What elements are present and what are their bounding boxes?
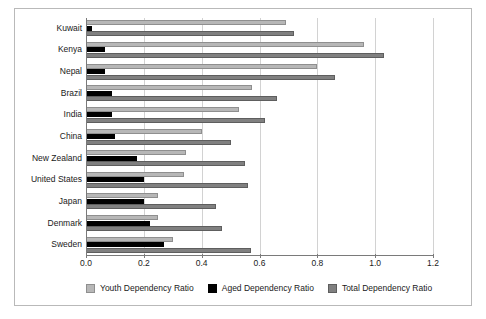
- y-axis-label: Japan: [2, 196, 82, 206]
- legend-swatch-icon: [328, 284, 337, 293]
- legend-item[interactable]: Aged Dependency Ratio: [208, 283, 314, 293]
- bar-group: [86, 85, 433, 102]
- bar: [86, 221, 150, 226]
- y-axis-label: New Zealand: [2, 153, 82, 163]
- plot-area: [86, 18, 433, 256]
- bar: [86, 177, 144, 182]
- x-axis-tick-label: 1.0: [369, 258, 381, 268]
- bar: [86, 91, 112, 96]
- bar-group: [86, 129, 433, 146]
- bar: [86, 129, 202, 134]
- y-axis-label: Kuwait: [2, 23, 82, 33]
- bar: [86, 26, 92, 31]
- bar: [86, 237, 173, 242]
- bar-group: [86, 107, 433, 124]
- legend-item[interactable]: Youth Dependency Ratio: [86, 283, 194, 293]
- x-axis-tick-label: 0.0: [80, 258, 92, 268]
- bar: [86, 156, 137, 161]
- x-axis-tick-label: 0.6: [254, 258, 266, 268]
- bar: [86, 199, 144, 204]
- bar: [86, 134, 115, 139]
- bar-group: [86, 20, 433, 37]
- bar: [86, 226, 222, 231]
- legend-item[interactable]: Total Dependency Ratio: [328, 283, 432, 293]
- bar-group: [86, 193, 433, 210]
- bar: [86, 96, 277, 101]
- y-axis-label: Sweden: [2, 239, 82, 249]
- gridline: [433, 18, 434, 256]
- chart-legend: Youth Dependency RatioAged Dependency Ra…: [86, 281, 446, 295]
- x-axis-tick-label: 1.2: [427, 258, 439, 268]
- bar: [86, 31, 294, 36]
- bar: [86, 183, 248, 188]
- bar-groups: [86, 18, 433, 256]
- bar: [86, 53, 384, 58]
- y-axis-label: Denmark: [2, 218, 82, 228]
- y-axis-label: United States: [2, 174, 82, 184]
- x-axis-tick-label: 0.4: [196, 258, 208, 268]
- bar: [86, 107, 239, 112]
- bar-group: [86, 64, 433, 81]
- bar: [86, 20, 286, 25]
- bar: [86, 112, 112, 117]
- bar-group: [86, 150, 433, 167]
- y-axis-label: Kenya: [2, 44, 82, 54]
- bar-group: [86, 215, 433, 232]
- chart-figure: KuwaitKenyaNepalBrazilIndiaChinaNew Zeal…: [0, 0, 486, 319]
- bar-group: [86, 42, 433, 59]
- bar-group: [86, 237, 433, 254]
- x-axis-ticks: 0.00.20.40.60.81.01.2: [86, 258, 433, 272]
- y-axis-label: China: [2, 131, 82, 141]
- bar: [86, 172, 184, 177]
- bar: [86, 215, 158, 220]
- y-axis-label: Brazil: [2, 88, 82, 98]
- bar: [86, 193, 158, 198]
- bar: [86, 248, 251, 253]
- x-axis-tick-label: 0.2: [138, 258, 150, 268]
- bar: [86, 69, 105, 74]
- y-axis-label: Nepal: [2, 66, 82, 76]
- bar: [86, 75, 335, 80]
- bar: [86, 42, 364, 47]
- bar: [86, 47, 105, 52]
- bar: [86, 242, 164, 247]
- bar: [86, 85, 252, 90]
- bar: [86, 161, 245, 166]
- bar: [86, 150, 186, 155]
- bar-group: [86, 172, 433, 189]
- bar: [86, 140, 231, 145]
- y-axis-labels: KuwaitKenyaNepalBrazilIndiaChinaNew Zeal…: [0, 18, 82, 256]
- legend-label: Youth Dependency Ratio: [100, 283, 194, 293]
- y-axis-label: India: [2, 109, 82, 119]
- legend-swatch-icon: [208, 284, 217, 293]
- legend-swatch-icon: [86, 284, 95, 293]
- legend-label: Aged Dependency Ratio: [222, 283, 314, 293]
- bar: [86, 118, 265, 123]
- bar: [86, 64, 317, 69]
- bar: [86, 204, 216, 209]
- legend-label: Total Dependency Ratio: [342, 283, 432, 293]
- x-axis-tick-label: 0.8: [311, 258, 323, 268]
